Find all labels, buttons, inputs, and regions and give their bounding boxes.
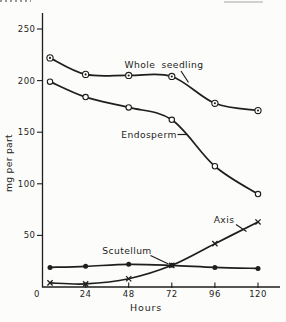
page-edge-artifact-right: [224, 1, 263, 3]
y-tick-label: 150: [18, 127, 36, 137]
x-tick-label: 0: [34, 289, 40, 299]
x-tick-label: 120: [249, 289, 267, 299]
y-tick-label: 250: [18, 24, 36, 34]
series-label-endosperm: Endosperm: [121, 129, 177, 140]
page-edge-artifact-left: [0, 0, 31, 2]
x-tick-label: 48: [123, 289, 135, 299]
series-label-scutellum: Scutellum: [102, 245, 151, 256]
x-tick-label: 72: [166, 289, 178, 299]
x-tick-label: 24: [80, 289, 92, 299]
axes: [43, 13, 281, 287]
y-tick-label: 100: [18, 179, 36, 189]
seedling-growth-line-chart: 50100150200250024487296120Hoursmg per pa…: [0, 0, 286, 322]
y-axis-title: mg per part: [3, 134, 14, 192]
leader-line-scutellum: [151, 256, 169, 265]
x-axis-title: Hours: [130, 302, 162, 313]
x-tick-label: 96: [209, 289, 221, 299]
series-line-axis: [50, 222, 258, 284]
series-markers-axis: [47, 219, 260, 286]
series-label-axis: Axis: [214, 214, 235, 225]
y-tick-label: 200: [18, 76, 36, 86]
series-label-whole-seedling: Whole seedling: [125, 59, 204, 70]
scanned-figure-page: 50100150200250024487296120Hoursmg per pa…: [0, 0, 286, 322]
series-line-scutellum: [50, 264, 258, 268]
y-tick-label: 50: [24, 230, 36, 240]
